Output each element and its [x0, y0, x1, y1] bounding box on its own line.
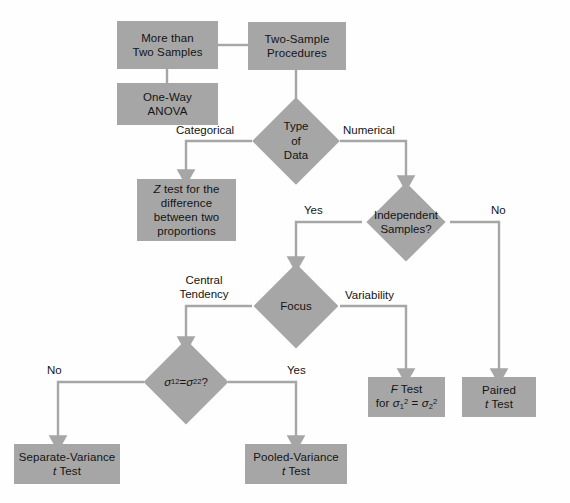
node-one-way-anova-label: One-WayANOVA: [143, 90, 192, 118]
wire-variability-to-ftest: [340, 306, 406, 376]
edge-label-numerical: Numerical: [343, 124, 395, 138]
node-type-of-data-label: TypeofData: [243, 110, 349, 172]
node-independent-samples[interactable]: IndependentSamples?: [378, 194, 434, 250]
node-more-than-two-samples-label: More thanTwo Samples: [132, 31, 202, 59]
node-separate-variance-t-test[interactable]: Separate-Variancet Test: [14, 444, 120, 484]
edge-label-central-tendency: CentralTendency: [164, 274, 244, 302]
node-f-test[interactable]: F Testfor σ12 = σ22: [368, 377, 445, 417]
wire-yes-to-pooled: [228, 382, 296, 443]
node-pooled-variance-t-test-label: Pooled-Variancet Test: [253, 450, 339, 478]
flowchart-canvas: More thanTwo Samples One-WayANOVA Two-Sa…: [0, 0, 570, 503]
node-variance-equal-label: σ12 = σ22?: [134, 352, 238, 412]
node-paired-t-test[interactable]: Pairedt Test: [462, 377, 536, 417]
wire-numerical-to-independent: [340, 141, 406, 183]
node-separate-variance-t-test-label: Separate-Variancet Test: [19, 450, 116, 478]
node-type-of-data[interactable]: TypeofData: [265, 110, 327, 172]
node-focus-label: Focus: [244, 276, 348, 336]
edge-label-yes-independent: Yes: [304, 204, 323, 218]
node-z-test[interactable]: Z test for thedifferencebetween twopropo…: [137, 179, 236, 241]
node-pooled-variance-t-test[interactable]: Pooled-Variancet Test: [245, 444, 347, 484]
node-more-than-two-samples[interactable]: More thanTwo Samples: [117, 21, 218, 69]
node-focus[interactable]: Focus: [266, 276, 326, 336]
wire-no-to-separate: [58, 382, 144, 443]
node-paired-t-test-label: Pairedt Test: [482, 383, 516, 411]
edge-label-categorical: Categorical: [176, 124, 234, 138]
edge-label-no-independent: No: [491, 204, 506, 218]
node-z-test-label: Z test for thedifferencebetween twopropo…: [154, 182, 220, 238]
node-variance-equal[interactable]: σ12 = σ22?: [156, 352, 216, 412]
node-two-sample-procedures[interactable]: Two-SampleProcedures: [248, 22, 346, 70]
node-independent-samples-label: IndependentSamples?: [348, 194, 464, 250]
edge-label-yes-variance: Yes: [287, 364, 306, 378]
edge-label-variability: Variability: [345, 289, 394, 303]
connector-lines: [0, 0, 570, 503]
node-two-sample-procedures-label: Two-SampleProcedures: [265, 32, 330, 60]
node-one-way-anova[interactable]: One-WayANOVA: [117, 83, 218, 125]
wire-centraltendency-to-variance: [186, 306, 252, 344]
node-f-test-label: F Testfor σ12 = σ22: [376, 382, 438, 411]
edge-label-no-variance: No: [47, 364, 62, 378]
